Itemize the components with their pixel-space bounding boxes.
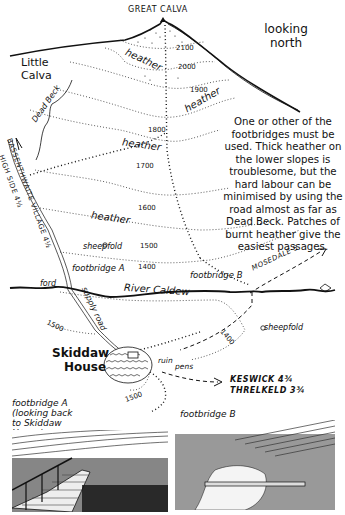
contour-label: 2000 [178, 64, 196, 71]
summit-triangle-icon [160, 17, 166, 22]
footbridge-plank [205, 482, 305, 486]
summit-label: GREAT CALVA [128, 6, 188, 14]
ruin-label: ruin [158, 357, 173, 365]
route-map: GREAT CALVA looking north Little Calva h… [0, 0, 345, 515]
contour-label: 1900 [190, 87, 208, 94]
footbridge-b-label: footbridge B [190, 271, 243, 280]
contour-label: 2100 [176, 45, 194, 52]
little-calva-label: Little Calva [21, 56, 61, 82]
skiddaw-house-label: Skiddaw [52, 347, 109, 359]
threlkeld-direction: THRELKELD 3¾ [230, 387, 305, 395]
sketch-b-caption: footbridge B [180, 409, 236, 419]
skiddaw-house-label: House [64, 361, 106, 373]
contour-label: 1700 [136, 163, 154, 170]
route-note: One or other of the footbridges must be … [223, 116, 343, 254]
caption-line: footbridge A [12, 398, 72, 408]
keswick-direction: KESWICK 4¾ [230, 376, 293, 384]
sheepfold-label: sheepfold [264, 324, 303, 332]
contour-label: 1400 [138, 264, 156, 271]
orientation-label: looking north [256, 22, 316, 50]
contour-label: 1500 [140, 243, 158, 250]
caption-line: to Skiddaw [12, 418, 72, 428]
footbridge-a-label: footbridge A [72, 264, 125, 273]
footbridge-b-sketch [175, 420, 335, 510]
contour-label: 1800 [148, 127, 166, 134]
footbridge-a-sketch [12, 430, 168, 512]
sheepfold-label: sheepfold [83, 243, 122, 251]
house-icon [128, 352, 138, 358]
ford-label: ford [40, 280, 56, 288]
pens-label: pens [175, 363, 193, 371]
caption-line: (looking back [12, 408, 72, 418]
contour-label: 1600 [138, 205, 156, 212]
